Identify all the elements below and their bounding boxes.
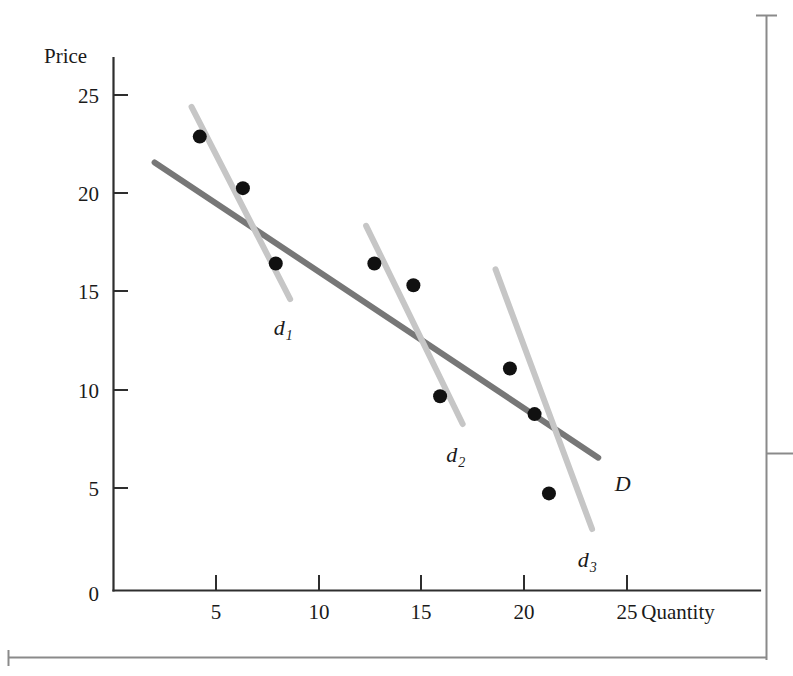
x-axis-tick-labels: 5 10 15 20 25 [211,600,638,624]
y-tick-label-20: 20 [78,182,99,206]
x-tick-label-15: 15 [411,600,432,624]
x-tick-label-25: 25 [617,600,638,624]
data-point [193,130,207,144]
y-tick-label-25: 25 [78,84,99,108]
page-frame-artifacts [8,16,793,667]
data-point [367,256,381,270]
data-point [269,256,283,270]
origin-label-zero: 0 [89,582,100,606]
data-point [236,181,250,195]
series-label-d3: d3 [578,547,597,575]
x-tick-label-20: 20 [514,600,535,624]
chart-canvas: 25 20 15 10 5 0 5 10 15 20 25 Price Quan… [0,0,793,676]
y-axis-ticks [113,95,128,488]
series-line-d2 [366,226,463,424]
data-point [542,486,556,500]
demand-curve-figure: 25 20 15 10 5 0 5 10 15 20 25 Price Quan… [0,0,793,676]
x-tick-label-10: 10 [309,600,330,624]
y-axis-title: Price [44,44,87,68]
x-axis-title: Quantity [641,600,715,624]
y-axis-tick-labels: 25 20 15 10 5 0 [78,84,99,606]
data-point [528,407,542,421]
data-point [406,278,420,292]
series-label-d1: d1 [274,315,293,343]
series-label-D: D [614,471,631,496]
data-points-layer [193,130,556,501]
data-point [433,389,447,403]
y-tick-label-10: 10 [78,379,99,403]
series-lines-layer [155,107,599,529]
x-axis-ticks [216,575,627,590]
y-tick-label-15: 15 [78,280,99,304]
y-tick-label-5: 5 [89,477,100,501]
data-point [503,362,517,376]
x-tick-label-5: 5 [211,600,222,624]
series-label-d2: d2 [446,442,465,470]
